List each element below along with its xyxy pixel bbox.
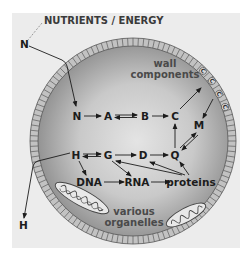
node-g: G	[104, 149, 113, 161]
node-d: D	[139, 149, 148, 161]
nutrients-energy-title: NUTRIENTS / ENERGY	[44, 15, 164, 26]
outside-excreted-h: H	[19, 219, 28, 231]
node-q: Q	[171, 149, 180, 161]
node-b: B	[141, 110, 149, 122]
node-rna: RNA	[125, 176, 151, 188]
node-c: C	[171, 110, 179, 122]
node-h: H	[72, 149, 81, 161]
node-m: M	[194, 119, 204, 131]
node-n: N	[73, 110, 82, 122]
wall-components-label-1: wall	[154, 58, 177, 69]
organelles-label-2: organelles	[104, 217, 163, 228]
organelles-label-1: various	[113, 206, 155, 217]
outside-nutrient-n: N	[20, 38, 29, 50]
node-a: A	[104, 110, 113, 122]
cell-metabolism-diagram: C C C C NUTRIENTS / ENERGY N H wall comp…	[0, 0, 251, 261]
node-dna: DNA	[76, 176, 103, 188]
node-proteins: proteins	[166, 176, 215, 188]
wall-components-label-2: components	[131, 69, 200, 80]
